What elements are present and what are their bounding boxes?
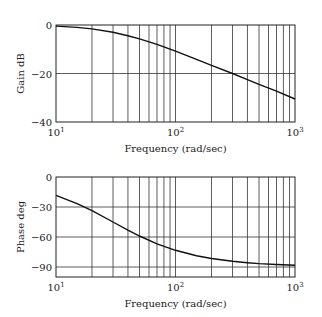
phase-xtick-label: 101: [47, 281, 64, 293]
gain-ytick-label: −20: [31, 69, 52, 80]
gain-xtick-label: 102: [167, 126, 184, 138]
phase-xtick-label: 102: [167, 281, 184, 293]
bode-plot: 0−20−40101102103Frequency (rad/sec)Gain …: [0, 0, 322, 317]
phase-xtick-label: 103: [286, 281, 303, 293]
phase-yaxis-label: Phase deg: [15, 200, 26, 253]
gain-xtick-label: 101: [47, 126, 64, 138]
gain-yaxis-label: Gain dB: [15, 53, 26, 94]
phase-ytick-label: −30: [31, 202, 52, 213]
phase-xaxis-label: Frequency (rad/sec): [124, 298, 226, 309]
gain-ytick-label: 0: [46, 20, 52, 31]
phase-ytick-label: 0: [46, 172, 52, 183]
phase-ytick-label: −60: [31, 232, 52, 243]
phase-ytick-label: −90: [31, 262, 52, 273]
gain-xtick-label: 103: [286, 126, 303, 138]
gain-xaxis-label: Frequency (rad/sec): [124, 143, 226, 154]
